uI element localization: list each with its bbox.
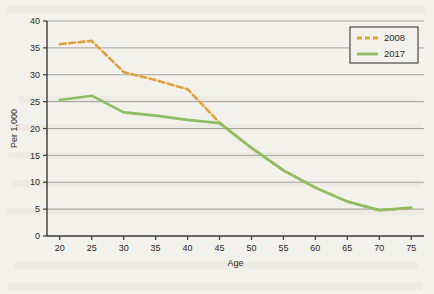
series-line-2008 — [60, 41, 411, 210]
x-tick-label-60: 60 — [310, 243, 320, 253]
chart-page: 0510152025303540202530354045505560657075… — [0, 0, 434, 294]
y-tick-label-5: 5 — [35, 204, 40, 214]
x-tick-label-30: 30 — [119, 243, 129, 253]
legend-label-2017: 2017 — [384, 48, 405, 59]
y-axis-title: Per 1,000 — [9, 109, 19, 148]
x-tick-label-65: 65 — [342, 243, 352, 253]
series-line-2017 — [60, 96, 411, 210]
x-tick-label-55: 55 — [278, 243, 288, 253]
x-tick-label-50: 50 — [246, 243, 256, 253]
x-tick-label-20: 20 — [55, 243, 65, 253]
x-tick-label-45: 45 — [215, 243, 225, 253]
x-tick-label-35: 35 — [151, 243, 161, 253]
x-tick-label-75: 75 — [406, 243, 416, 253]
y-tick-label-15: 15 — [30, 151, 40, 161]
y-tick-label-25: 25 — [30, 97, 40, 107]
line-chart: 0510152025303540202530354045505560657075… — [0, 0, 434, 294]
y-tick-label-10: 10 — [30, 177, 40, 187]
y-tick-label-40: 40 — [30, 16, 40, 26]
x-axis-title: Age — [227, 258, 243, 268]
y-tick-label-0: 0 — [35, 231, 40, 241]
y-tick-label-35: 35 — [30, 43, 40, 53]
y-tick-label-30: 30 — [30, 70, 40, 80]
legend-label-2008: 2008 — [384, 32, 405, 43]
x-tick-label-70: 70 — [374, 243, 384, 253]
x-tick-label-25: 25 — [87, 243, 97, 253]
y-tick-label-20: 20 — [30, 124, 40, 134]
x-tick-label-40: 40 — [183, 243, 193, 253]
